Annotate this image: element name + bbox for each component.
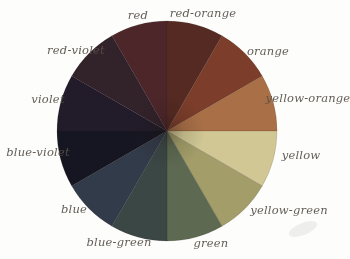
label-blue: blue bbox=[61, 202, 87, 216]
label-red-orange: red-orange bbox=[170, 6, 236, 20]
label-yellow-green: yellow-green bbox=[250, 203, 328, 217]
label-yellow-orange: yellow-orange bbox=[266, 91, 350, 105]
label-blue-violet: blue-violet bbox=[6, 145, 70, 159]
label-blue-green: blue-green bbox=[86, 235, 151, 249]
label-violet: violet bbox=[31, 92, 64, 106]
label-yellow: yellow bbox=[282, 148, 321, 162]
scan-smudge bbox=[287, 218, 319, 240]
label-red: red bbox=[128, 8, 148, 22]
label-green: green bbox=[194, 236, 229, 250]
color-wheel-figure: red red-orange orange yellow-orange yell… bbox=[0, 0, 350, 259]
color-wheel bbox=[0, 0, 350, 259]
wheel-center-shading bbox=[129, 93, 205, 169]
label-orange: orange bbox=[247, 44, 289, 58]
label-red-violet: red-violet bbox=[47, 43, 105, 57]
